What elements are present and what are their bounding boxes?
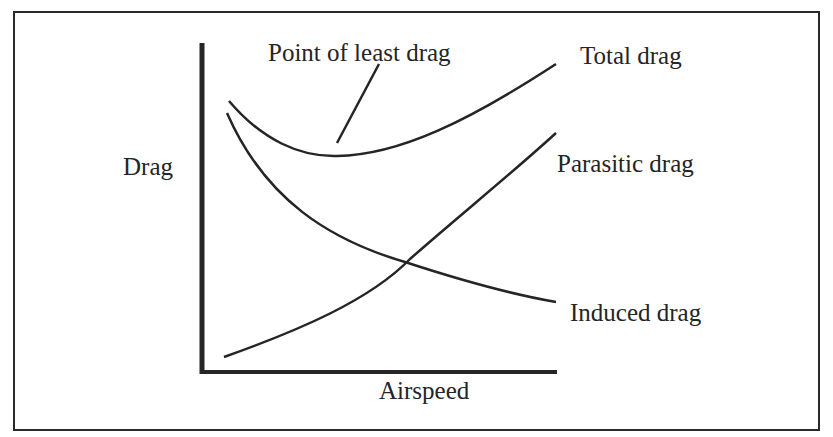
- parasitic-drag-label: Parasitic drag: [557, 151, 694, 176]
- least-drag-label: Point of least drag: [268, 40, 451, 65]
- y-axis-label: Drag: [123, 154, 173, 179]
- total-drag-curve: [229, 64, 556, 156]
- least-drag-pointer: [337, 64, 379, 143]
- parasitic-drag-curve: [224, 133, 556, 357]
- total-drag-label: Total drag: [580, 43, 682, 68]
- induced-drag-label: Induced drag: [570, 300, 701, 325]
- x-axis-label: Airspeed: [379, 378, 469, 403]
